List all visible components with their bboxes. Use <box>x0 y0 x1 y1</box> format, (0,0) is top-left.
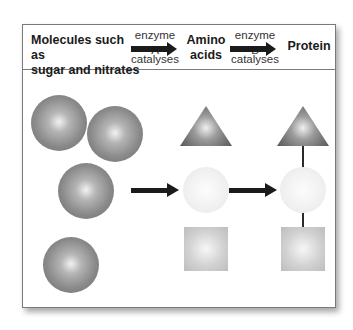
amino-acid-sphere <box>183 167 229 213</box>
substrate-label-line2: sugar and nitrates <box>31 63 141 78</box>
amino-acid-square <box>184 227 228 271</box>
reaction-header: Molecules such as sugar and nitrates enz… <box>23 25 335 70</box>
protein-triangle <box>277 106 329 146</box>
amino-acids-line1: Amino <box>184 33 228 48</box>
molecule-sphere <box>43 237 99 293</box>
molecule-sphere <box>87 106 143 162</box>
substrate-label: Molecules such as sugar and nitrates <box>31 33 141 78</box>
protein-square <box>281 227 325 271</box>
amino-acid-triangle <box>180 106 232 146</box>
diagram-panel: Molecules such as sugar and nitrates enz… <box>22 24 336 308</box>
substrate-label-line1: Molecules such as <box>31 33 141 63</box>
peptide-bond-line <box>302 145 304 169</box>
amino-acids-label: Amino acids <box>184 33 228 63</box>
catalyses-b-label: catalyses <box>228 52 282 67</box>
catalyses-a-label: catalyses <box>129 52 181 67</box>
arrow-icon <box>131 188 169 193</box>
amino-acids-line2: acids <box>184 48 228 63</box>
protein-sphere <box>280 167 326 213</box>
molecule-sphere <box>31 95 87 151</box>
molecule-sphere <box>58 163 114 219</box>
arrow-icon <box>229 188 267 193</box>
protein-label: Protein <box>285 39 333 54</box>
